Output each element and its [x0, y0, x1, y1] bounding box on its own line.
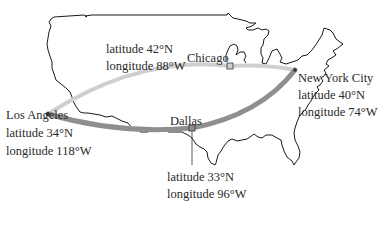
- dallas-name: Dallas: [170, 115, 202, 128]
- new-york-longitude: longitude 74°W: [298, 106, 378, 119]
- chicago-longitude: longitude 88°W: [106, 60, 186, 73]
- los-angeles-longitude: longitude 118°W: [6, 145, 91, 158]
- great-lakes-outline: [226, 44, 246, 63]
- los-angeles-name: Los Angeles: [6, 109, 68, 122]
- new-york-latitude: latitude 40°N: [298, 89, 365, 102]
- dallas-longitude: longitude 96°W: [167, 188, 247, 201]
- dallas-latitude: latitude 33°N: [167, 171, 234, 184]
- chicago-name: Chicago: [187, 52, 229, 65]
- los-angeles-latitude: latitude 34°N: [6, 127, 73, 140]
- new-york-name: New York City: [298, 72, 373, 85]
- chicago-latitude: latitude 42°N: [106, 43, 173, 56]
- new-york-marker[interactable]: [293, 68, 297, 72]
